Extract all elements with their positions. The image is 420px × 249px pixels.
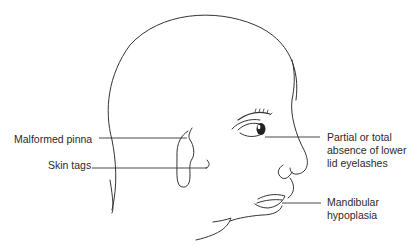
jaw-line	[230, 206, 282, 221]
nose-profile	[290, 60, 307, 174]
label-malformed-pinna: Malformed pinna	[14, 133, 92, 146]
label-skin-tags: Skin tags	[48, 159, 91, 172]
neck-left	[110, 180, 113, 213]
mouth	[255, 195, 285, 208]
skin-tag	[206, 160, 209, 168]
ear-outline	[177, 128, 194, 187]
eyebrow	[238, 113, 270, 120]
head-outline	[108, 15, 297, 210]
upper-lip	[288, 178, 294, 198]
eye-iris	[257, 123, 266, 135]
mouth-line	[257, 200, 282, 203]
nostril	[278, 165, 292, 179]
neck-line	[196, 218, 231, 240]
label-eyelash-absence: Partial or total absence of lower lid ey…	[327, 131, 406, 170]
label-mandibular-hypoplasia: Mandibular hypoplasia	[327, 196, 379, 222]
eye-highlight	[258, 125, 261, 129]
